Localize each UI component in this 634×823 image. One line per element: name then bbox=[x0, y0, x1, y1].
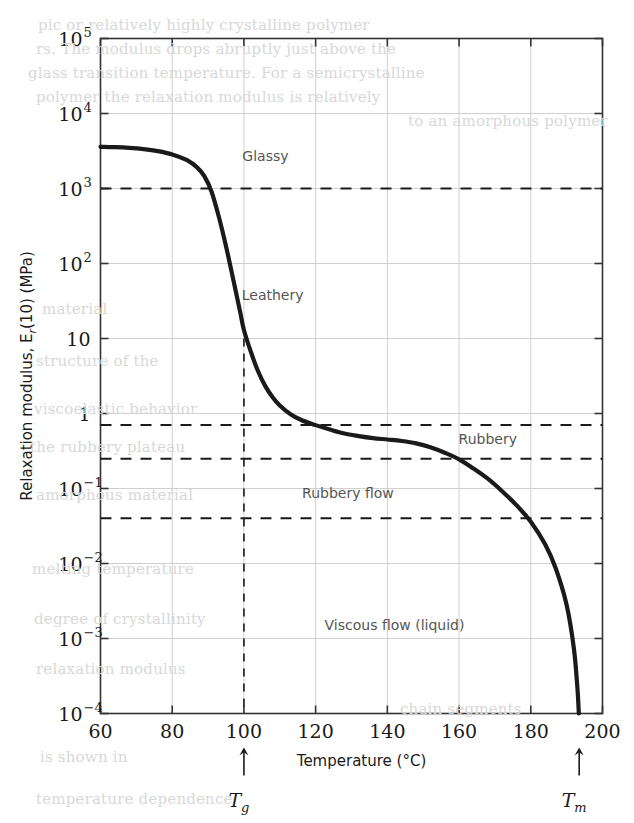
page-bleed-text: to an amorphous polymer bbox=[408, 112, 608, 130]
y-axis-title-tail: (10) (MPa) bbox=[18, 251, 36, 329]
y-tick-label: 10 bbox=[66, 328, 90, 350]
x-tick-label: 60 bbox=[88, 720, 112, 742]
page-bleed-text: polymer the relaxation modulus is relati… bbox=[36, 88, 381, 106]
region-label: Rubbery flow bbox=[302, 485, 394, 501]
y-tick-label: 103 bbox=[58, 175, 91, 200]
page-bleed-text: structure of the bbox=[36, 352, 159, 370]
region-label: Leathery bbox=[242, 287, 304, 303]
page-bleed-text: temperature dependence bbox=[36, 790, 233, 808]
page-bleed-text: is shown in bbox=[40, 748, 128, 766]
x-tick-label: 120 bbox=[298, 720, 334, 742]
y-tick-label: 10−3 bbox=[58, 625, 102, 650]
y-tick-exponent: 2 bbox=[84, 250, 92, 265]
region-label: Glassy bbox=[242, 148, 288, 164]
marker-label-subscript: m bbox=[574, 800, 586, 815]
region-label: Viscous flow (liquid) bbox=[325, 617, 465, 633]
page-bleed-text: the rubbery plateau bbox=[30, 438, 185, 456]
page-bleed-text: viscoelastic behavior bbox=[34, 400, 197, 418]
x-tick-labels: 6080100120140160180200 bbox=[88, 720, 620, 742]
x-tick-label: 160 bbox=[441, 720, 477, 742]
relaxation-modulus-figure: 608010012014016018020010−410−310−210−111… bbox=[0, 0, 634, 823]
y-tick-base: 10 bbox=[58, 628, 82, 650]
y-tick-label: 102 bbox=[58, 250, 91, 275]
page-bleed-text: pic or relatively highly crystalline pol… bbox=[38, 16, 370, 34]
x-tick-label: 140 bbox=[369, 720, 405, 742]
y-tick-exponent: −4 bbox=[84, 700, 103, 715]
marker-label: Tm bbox=[562, 789, 587, 815]
y-tick-base: 10 bbox=[58, 253, 82, 275]
y-tick-base: 10 bbox=[58, 178, 82, 200]
page-bleed-text: rs. The modulus drops abruptly just abov… bbox=[36, 40, 396, 58]
y-tick-base: 10 bbox=[58, 703, 82, 725]
page-bleed-text: amorphous material bbox=[36, 486, 193, 504]
page-bleed-text: relaxation modulus bbox=[36, 660, 186, 678]
page-bleed-text: material bbox=[42, 300, 107, 318]
marker-label-subscript: g bbox=[241, 800, 249, 815]
x-axis-title: Temperature (°C) bbox=[296, 752, 426, 770]
x-tick-label: 100 bbox=[226, 720, 262, 742]
region-label: Rubbery bbox=[459, 431, 517, 447]
region-labels: GlassyLeatheryRubberyRubbery flowViscous… bbox=[242, 148, 517, 633]
page-bleed-text: glass transition temperature. For a semi… bbox=[28, 64, 425, 82]
reference-lines bbox=[101, 189, 603, 519]
page-bleed-text: chain segments bbox=[400, 700, 522, 718]
y-tick-base: 10 bbox=[66, 328, 90, 350]
page-bleed-text: degree of crystallinity bbox=[34, 610, 206, 628]
y-tick-exponent: 3 bbox=[84, 175, 92, 190]
x-tick-label: 80 bbox=[160, 720, 184, 742]
x-tick-label: 180 bbox=[513, 720, 549, 742]
y-axis-title: Relaxation modulus, Er(10) (MPa) bbox=[18, 251, 39, 501]
x-tick-label: 200 bbox=[584, 720, 620, 742]
marker-melting-temperature: Tm bbox=[562, 748, 587, 815]
page-bleed-text: melting temperature bbox=[32, 560, 194, 578]
